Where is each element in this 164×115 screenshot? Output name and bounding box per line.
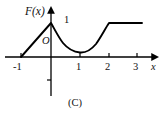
figure-caption: (C) <box>68 98 82 109</box>
x-tick-label-3: 3 <box>133 62 138 73</box>
x-tick-label-1: 1 <box>76 62 81 73</box>
x-tick-label-2: 2 <box>105 62 110 73</box>
peak-value-label: 1 <box>64 15 69 26</box>
function-curve <box>21 23 142 57</box>
origin-label: O <box>42 36 50 47</box>
x-tick-label-neg1: -1 <box>13 62 22 73</box>
graph-figure: F(x) x 1 O -1 1 2 3 (C) <box>0 0 164 115</box>
y-axis-label: F(x) <box>25 6 45 18</box>
x-axis-label: x <box>151 62 156 73</box>
